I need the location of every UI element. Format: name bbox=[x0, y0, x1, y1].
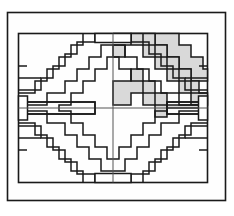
staircase-tiling-figure bbox=[0, 0, 234, 216]
figure-container bbox=[0, 0, 234, 216]
